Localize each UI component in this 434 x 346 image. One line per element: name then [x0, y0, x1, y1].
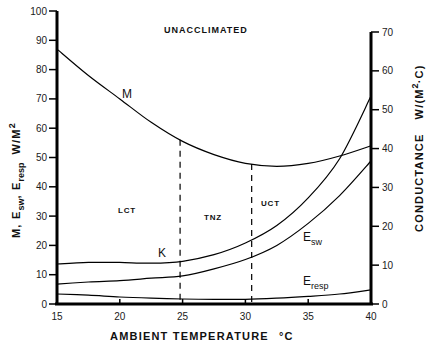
x-tick-label: 30 [240, 311, 252, 322]
tnz-label: TNZ [204, 213, 222, 222]
m-curve-label: M [122, 87, 132, 101]
right-y-axis-title: CONDUCTANCEW/(M2·C) [410, 64, 425, 232]
metabolic-rate-curve [57, 49, 371, 166]
left-tick-label: 90 [36, 35, 48, 46]
right-tick-label: 10 [382, 260, 394, 271]
esw-curve-label: Esw [303, 230, 323, 247]
right-y-axis-ticks: 010203040506070 [371, 27, 394, 310]
left-tick-label: 0 [41, 299, 47, 310]
x-tick-label: 15 [51, 311, 63, 322]
conductance-curve [57, 96, 371, 264]
left-tick-label: 10 [36, 269, 48, 280]
k-curve-label: K [158, 246, 166, 260]
right-tick-label: 30 [382, 182, 394, 193]
left-y-axis-ticks: 0102030405060708090100 [30, 6, 57, 310]
right-tick-label: 40 [382, 143, 394, 154]
thermoregulation-chart: 0102030405060708090100 010203040506070 1… [0, 0, 434, 346]
left-tick-label: 100 [30, 6, 47, 17]
x-tick-label: 35 [303, 311, 315, 322]
right-tick-label: 0 [382, 299, 388, 310]
right-tick-label: 50 [382, 104, 394, 115]
uct-label: UCT [261, 199, 280, 208]
respiratory-evaporation-curve [57, 290, 371, 300]
chart-title: UNACCLIMATED [164, 25, 248, 35]
x-tick-label: 25 [177, 311, 189, 322]
left-tick-label: 60 [36, 123, 48, 134]
left-tick-label: 20 [36, 240, 48, 251]
left-y-axis-title: M, Esw, ErespW/M2 [7, 123, 26, 238]
left-tick-label: 70 [36, 93, 48, 104]
left-tick-label: 80 [36, 64, 48, 75]
right-tick-label: 20 [382, 221, 394, 232]
right-tick-label: 60 [382, 65, 394, 76]
left-tick-label: 40 [36, 181, 48, 192]
left-tick-label: 30 [36, 211, 48, 222]
x-tick-label: 40 [365, 311, 377, 322]
x-axis-title: AMBIENT TEMPERATURE°C [110, 330, 294, 342]
x-axis-ticks: 152025303540 [51, 299, 377, 322]
eresp-curve-label: Eresp [303, 274, 329, 291]
right-tick-label: 70 [382, 27, 394, 38]
lct-label: LCT [118, 206, 136, 215]
left-tick-label: 50 [36, 152, 48, 163]
x-tick-label: 20 [114, 311, 126, 322]
